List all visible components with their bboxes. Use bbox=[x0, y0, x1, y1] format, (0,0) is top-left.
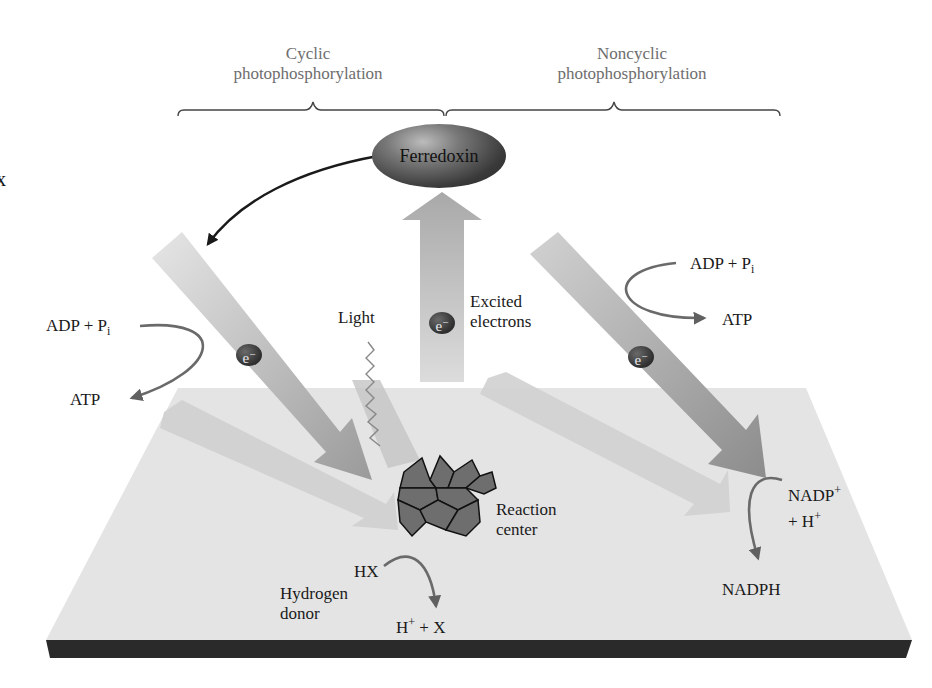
left-adp-label: ADP + Pi bbox=[46, 316, 110, 341]
electron-charge: − bbox=[249, 348, 255, 360]
reaction-center-line1: Reaction bbox=[496, 500, 556, 520]
photophosphorylation-diagram: x Cyclic photophosphorylation Noncyclic … bbox=[0, 0, 932, 688]
ferredoxin-label: Ferredoxin bbox=[400, 146, 479, 167]
cyclic-brace bbox=[178, 102, 444, 116]
ferredoxin-return-curve bbox=[208, 156, 378, 244]
excited-electrons-label: Excited electrons bbox=[470, 292, 531, 332]
left-atp-label: ATP bbox=[70, 390, 100, 410]
hx-label: HX bbox=[354, 562, 379, 582]
cyclic-header: Cyclic photophosphorylation bbox=[208, 44, 408, 84]
reaction-center-line2: center bbox=[496, 520, 556, 540]
nadp-label: NADP+ + H+ bbox=[788, 480, 841, 532]
hydrogen-donor-label: Hydrogen donor bbox=[280, 584, 348, 624]
membrane-base bbox=[46, 640, 912, 658]
noncyclic-brace bbox=[446, 102, 780, 116]
left-adp-sub: i bbox=[107, 324, 110, 338]
diagram-graphics bbox=[0, 0, 932, 688]
noncyclic-header-line2: photophosphorylation bbox=[512, 64, 752, 84]
hydrogen-donor-line1: Hydrogen bbox=[280, 584, 348, 604]
left-atp-curve bbox=[132, 325, 203, 398]
nadp-text: NADP bbox=[788, 486, 834, 505]
plus-x-text: + X bbox=[415, 618, 445, 637]
right-atp-label: ATP bbox=[722, 310, 752, 330]
nadp-line: NADP+ bbox=[788, 480, 841, 506]
excited-line2: electrons bbox=[470, 312, 531, 332]
ferredoxin-node: Ferredoxin bbox=[372, 124, 506, 188]
right-adp-text: ADP + P bbox=[690, 254, 751, 273]
electron-charge: − bbox=[442, 316, 448, 328]
electron-badge-right: e− bbox=[628, 346, 654, 368]
plus-h-line: + H+ bbox=[788, 506, 841, 532]
electron-badge-up: e− bbox=[429, 312, 455, 334]
right-adp-label: ADP + Pi bbox=[690, 254, 754, 279]
left-adp-text: ADP + P bbox=[46, 316, 107, 335]
reaction-center-label: Reaction center bbox=[496, 500, 556, 540]
electron-charge: − bbox=[641, 350, 647, 362]
h-text: H bbox=[396, 618, 408, 637]
electron-badge-left: e− bbox=[236, 344, 262, 366]
noncyclic-header-line1: Noncyclic bbox=[512, 44, 752, 64]
hydrogen-donor-line2: donor bbox=[280, 604, 348, 624]
plus-h-text: + H bbox=[788, 512, 814, 531]
noncyclic-header: Noncyclic photophosphorylation bbox=[512, 44, 752, 84]
nadph-label: NADPH bbox=[722, 580, 781, 600]
light-label: Light bbox=[338, 308, 375, 328]
plus-h-sup: + bbox=[814, 509, 821, 523]
excited-electron-arrow bbox=[402, 192, 482, 382]
nadp-sup: + bbox=[834, 483, 841, 497]
edge-fragment-text: x bbox=[0, 168, 6, 191]
cyclic-header-line2: photophosphorylation bbox=[208, 64, 408, 84]
excited-line1: Excited bbox=[470, 292, 531, 312]
right-adp-sub: i bbox=[751, 262, 754, 276]
h-plus-x-label: H+ + X bbox=[396, 612, 445, 638]
cyclic-header-line1: Cyclic bbox=[208, 44, 408, 64]
